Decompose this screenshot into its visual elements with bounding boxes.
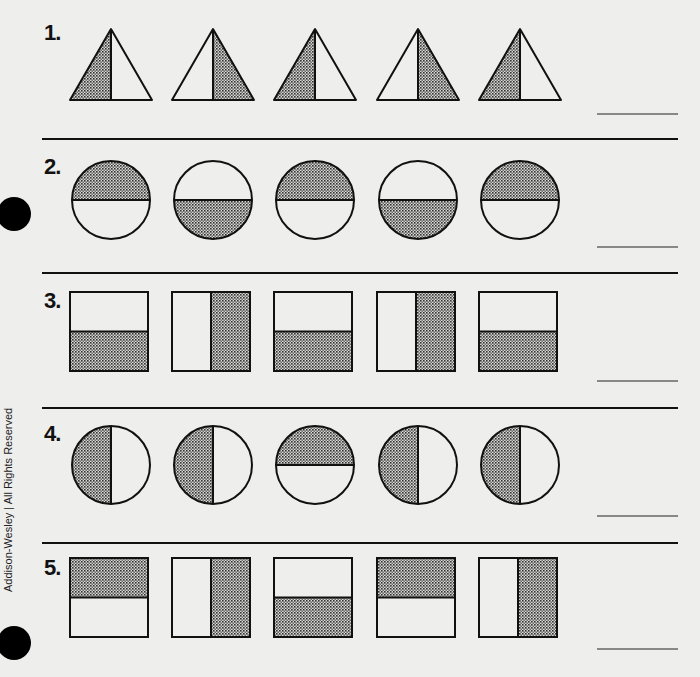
binder-hole-top [0,197,31,231]
fraction-figures [0,0,700,677]
worksheet-page: Addison-Wesley | All Rights Reserved 1. … [0,0,700,677]
binder-hole-bottom [0,626,31,660]
